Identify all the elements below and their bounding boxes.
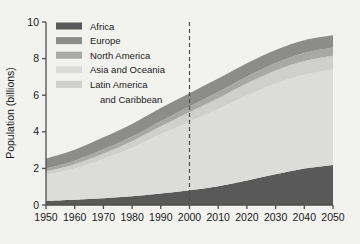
- legend-swatch: [56, 81, 82, 88]
- x-axis-tick-label: 1980: [120, 211, 144, 223]
- legend-label: North America: [90, 50, 151, 61]
- x-axis-tick-label: 1950: [34, 211, 58, 223]
- y-axis-tick-label: 10: [27, 16, 39, 28]
- x-axis-tick-label: 1960: [63, 211, 87, 223]
- population-stacked-area-chart: 0246810 19501960197019801990200020102020…: [0, 0, 360, 244]
- x-axis-tick-label: 1970: [92, 211, 116, 223]
- legend-label: Latin America: [90, 79, 148, 90]
- x-axis-tick-label: 2040: [293, 211, 317, 223]
- x-axis-tick-label: 2030: [264, 211, 288, 223]
- y-axis-tick-label: 4: [33, 125, 39, 137]
- chart-canvas: 0246810 19501960197019801990200020102020…: [0, 0, 360, 244]
- x-axis-tick-label: 1990: [149, 211, 173, 223]
- x-axis-tick-label: 2000: [178, 211, 202, 223]
- legend-swatch: [56, 52, 82, 59]
- legend-label: Africa: [90, 21, 115, 32]
- y-axis-tick-label: 0: [33, 199, 39, 211]
- legend-label: and Caribbean: [100, 94, 162, 105]
- y-axis-title: Population (billions): [4, 67, 16, 159]
- legend-label: Europe: [90, 35, 121, 46]
- legend-label: Asia and Oceania: [90, 64, 166, 75]
- x-axis-tick-label: 2050: [321, 211, 345, 223]
- y-axis-tick-label: 2: [33, 162, 39, 174]
- y-axis-tick-label: 6: [33, 89, 39, 101]
- y-axis-tick-label: 8: [33, 52, 39, 64]
- x-axis-tick-label: 2020: [235, 211, 259, 223]
- legend-swatch: [56, 37, 82, 44]
- legend-swatch: [56, 66, 82, 73]
- x-axis-tick-label: 2010: [207, 211, 231, 223]
- legend-swatch: [56, 23, 82, 30]
